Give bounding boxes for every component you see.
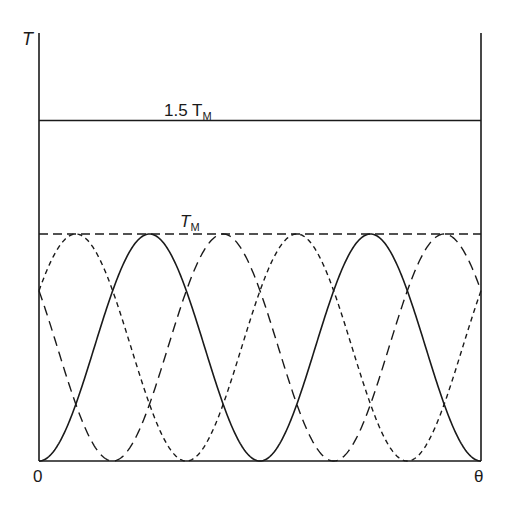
ref-label-1-5-tm-sub: M — [202, 110, 211, 122]
torque-chart: T 0 θ 1.5 TM TM — [0, 0, 506, 507]
x-origin-label: 0 — [33, 467, 42, 486]
ref-label-tm: TM — [180, 212, 200, 233]
ref-label-1-5-tm: 1.5 TM — [164, 101, 212, 122]
curve-phase-a — [39, 234, 481, 461]
x-end-label: θ — [474, 467, 483, 486]
curve-phase-b — [39, 234, 481, 461]
ref-label-tm-sub: M — [190, 221, 199, 233]
curve-phase-c — [39, 234, 481, 461]
y-axis-label: T — [22, 29, 35, 49]
ref-label-1-5-tm-main: 1.5 T — [164, 101, 202, 120]
